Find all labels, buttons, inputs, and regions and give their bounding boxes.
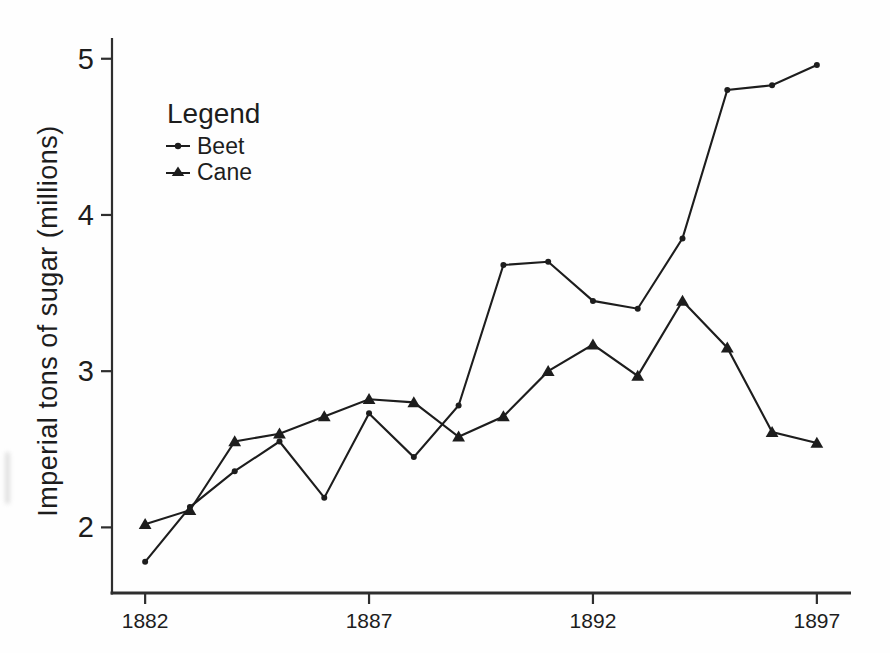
beet-point-marker (680, 235, 686, 241)
cane-line-triangle-icon (165, 165, 192, 179)
legend-title: Legend (167, 98, 260, 130)
beet-point-marker (635, 306, 641, 312)
beet-point-marker (814, 62, 820, 68)
beet-point-marker (366, 410, 372, 416)
legend-entry-cane: Cane (165, 159, 260, 185)
legend-entry-beet: Beet (165, 133, 260, 159)
beet-point-marker (500, 262, 506, 268)
x-tick-label: 1882 (122, 609, 169, 632)
cane-point-marker (542, 365, 555, 376)
beet-point-marker (276, 438, 282, 444)
legend: Legend Beet Cane (165, 98, 260, 185)
scan-smudge-artifact (5, 452, 10, 504)
beet-point-marker (456, 403, 462, 409)
cane-point-marker (631, 370, 644, 381)
line-chart-canvas: 18821887189218972345 (0, 0, 890, 653)
cane-point-marker (587, 338, 600, 349)
beet-point-marker (724, 87, 730, 93)
cane-point-marker (766, 426, 779, 437)
x-tick-label: 1887 (346, 609, 393, 632)
beet-line-dot-icon (165, 139, 192, 153)
beet-point-marker (411, 454, 417, 460)
y-tick-label: 5 (78, 43, 94, 75)
legend-label-beet: Beet (197, 133, 244, 159)
cane-point-marker (184, 504, 197, 515)
beet-point-marker (545, 259, 551, 265)
y-axis-title: Imperial tons of sugar (millions) (33, 71, 67, 571)
y-tick-label: 4 (78, 199, 94, 231)
cane-point-marker (676, 295, 689, 306)
sugar-production-chart: 18821887189218972345 Imperial tons of su… (0, 0, 890, 653)
y-tick-label: 2 (78, 511, 94, 543)
x-tick-label: 1897 (794, 609, 841, 632)
beet-point-marker (232, 468, 238, 474)
beet-point-marker (769, 82, 775, 88)
beet-point-marker (142, 559, 148, 565)
legend-label-cane: Cane (197, 159, 252, 185)
beet-point-marker (321, 495, 327, 501)
beet-point-marker (590, 298, 596, 304)
y-tick-label: 3 (78, 355, 94, 387)
x-tick-label: 1892 (570, 609, 617, 632)
